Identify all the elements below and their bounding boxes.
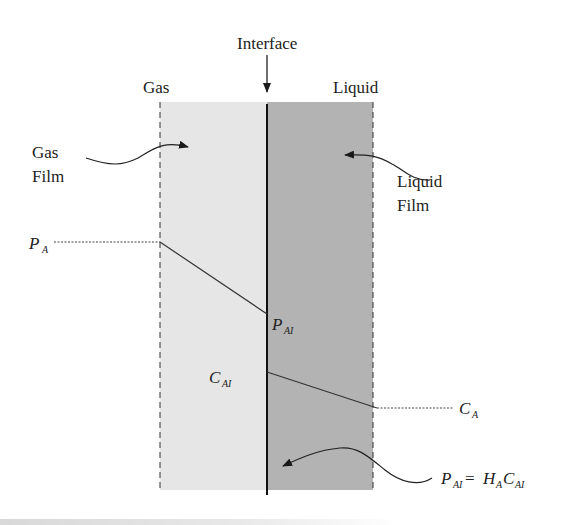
svg-text:C: C <box>459 399 471 418</box>
svg-text:C: C <box>209 368 221 387</box>
pa-symbol: P A <box>28 234 49 255</box>
svg-text:AI: AI <box>452 479 463 490</box>
svg-text:H: H <box>482 469 497 488</box>
liquid-label: Liquid <box>333 78 379 97</box>
svg-text:P: P <box>440 469 451 488</box>
liquid-film-label-line2: Film <box>397 196 429 215</box>
gas-label: Gas <box>143 78 169 97</box>
henry-law-equation: P AI = H A C AI <box>440 469 525 490</box>
svg-text:P: P <box>271 315 282 334</box>
svg-text:P: P <box>28 234 39 253</box>
gas-film-label-line2: Film <box>32 167 64 186</box>
svg-text:AI: AI <box>283 325 294 336</box>
svg-text:A: A <box>495 479 503 490</box>
ca-symbol: C A <box>459 399 479 420</box>
gas-film-label-line1: Gas <box>32 143 58 162</box>
svg-text:C: C <box>503 469 515 488</box>
two-film-diagram: Interface Gas Liquid Gas Film Liquid Fil… <box>0 0 577 525</box>
liquid-film-label-line1: Liquid <box>397 172 443 191</box>
svg-text:AI: AI <box>514 479 525 490</box>
interface-label: Interface <box>237 34 297 53</box>
svg-text:A: A <box>471 409 479 420</box>
gas-film-region <box>160 102 267 490</box>
svg-text:A: A <box>41 244 49 255</box>
svg-text:AI: AI <box>221 378 232 389</box>
page-bottom-edge <box>0 519 400 525</box>
svg-text:=: = <box>465 469 475 488</box>
liquid-film-region <box>267 102 373 490</box>
